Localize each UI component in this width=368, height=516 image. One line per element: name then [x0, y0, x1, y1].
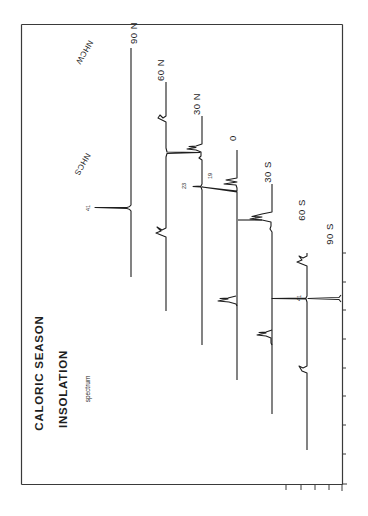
insolation-spectrum-chart: 41 90 N 60 N 30 N 23 19 0 30 S 41 60 S 9…	[0, 0, 368, 516]
peak-label-41-90n: 41	[85, 205, 91, 211]
row-label-60s: 60 S	[296, 199, 307, 221]
row-label-60n: 60 N	[155, 59, 166, 81]
trace-90n: 41 90 N	[85, 22, 138, 277]
trace-30s: 30 S	[238, 161, 273, 414]
chart-caption: spectrum	[84, 376, 92, 403]
band-label-nhcw: NHCW	[74, 39, 95, 66]
plot-frame	[22, 25, 343, 485]
chart-title: CALORIC SEASON	[33, 315, 45, 430]
row-label-30s: 30 S	[262, 161, 273, 183]
peak-label-41-60s: 41	[296, 295, 302, 301]
row-label-30n: 30 N	[191, 93, 202, 115]
peak-label-19: 19	[207, 173, 213, 179]
trace-0: 23 19 0	[181, 135, 237, 380]
row-label-90s: 90 S	[324, 223, 335, 245]
trace-60s: 41 60 S	[272, 199, 307, 450]
trace-30n: 30 N	[187, 93, 202, 345]
peak-label-23: 23	[181, 183, 187, 189]
trace-90s: 90 S	[308, 223, 341, 302]
row-label-90n: 90 N	[128, 22, 139, 44]
row-label-0: 0	[227, 135, 238, 141]
band-label-nhcs: NHCS	[72, 152, 92, 177]
chart-subtitle: INSOLATION	[57, 350, 69, 428]
